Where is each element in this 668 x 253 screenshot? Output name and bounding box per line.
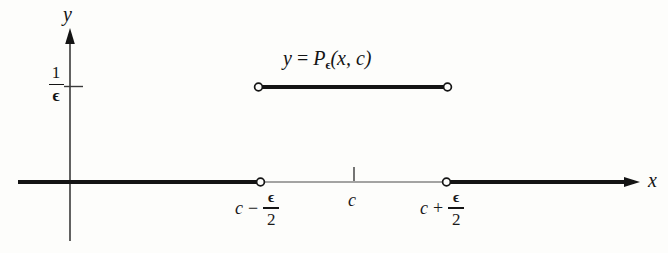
tick-operator: − (243, 198, 263, 219)
fraction-numerator: 1 (45, 64, 67, 83)
fraction-numerator: ϵ (268, 190, 274, 207)
open-point-x-axis-left (257, 178, 265, 186)
fraction-numerator: ϵ (453, 190, 459, 207)
fraction-denominator: ϵ (45, 86, 67, 105)
x-tick-label-left-endpoint: c − ϵ 2 (235, 190, 279, 228)
pulse-function-figure: y x 1 ϵ y=Pϵ(x, c) c − ϵ 2 c c + ϵ 2 (0, 0, 668, 253)
x-tick-label-center: c (348, 190, 356, 211)
y-axis-tick-label-one-over-epsilon: 1 ϵ (45, 64, 67, 105)
fraction-denominator: 2 (267, 209, 276, 228)
equation-equals-sign: = (292, 47, 313, 69)
x-axis-label: x (648, 170, 657, 190)
fraction-denominator: 2 (452, 209, 461, 228)
tick-base-symbol: c (348, 190, 356, 211)
open-point-plateau-left (255, 83, 263, 91)
open-point-plateau-right (444, 83, 452, 91)
tick-base-symbol: c (420, 198, 428, 219)
tick-fraction: ϵ 2 (448, 190, 464, 228)
equation-function-name: P (313, 47, 325, 69)
equation-lhs: y (283, 47, 292, 69)
tick-base-symbol: c (235, 198, 243, 219)
y-axis-label: y (63, 4, 72, 24)
fraction-bar (49, 84, 64, 86)
tick-operator: + (428, 198, 448, 219)
figure-canvas (0, 0, 668, 253)
y-axis-arrowhead (65, 28, 75, 44)
tick-fraction: ϵ 2 (263, 190, 279, 228)
curve-equation-label: y=Pϵ(x, c) (283, 48, 372, 71)
open-point-x-axis-right (443, 178, 451, 186)
x-tick-label-right-endpoint: c + ϵ 2 (420, 190, 464, 228)
equation-arguments: (x, c) (330, 47, 371, 69)
